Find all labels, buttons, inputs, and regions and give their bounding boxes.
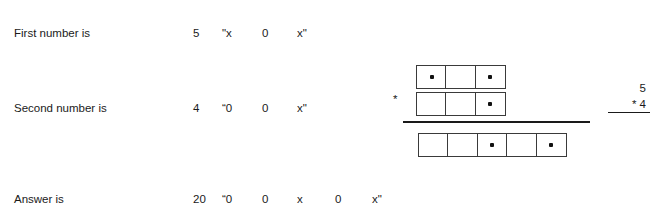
worksheet-canvas: First number is 5 "x 0 x" Second number …	[0, 0, 659, 220]
diagram-divider-line	[403, 121, 590, 123]
cell-empty	[447, 133, 478, 157]
cell-filled	[536, 133, 567, 157]
second-number-label: Second number is	[14, 101, 107, 115]
cell-filled	[475, 92, 506, 116]
cell-filled	[475, 65, 506, 89]
answer-label: Answer is	[14, 192, 64, 206]
long-multiplication: 5 * 4	[608, 80, 650, 113]
cell-filled	[416, 65, 447, 89]
answer-digit-2: 0	[262, 192, 268, 206]
answer-digit-3: x	[297, 192, 303, 206]
second-operand-row	[416, 92, 504, 116]
first-number-digit-3: x"	[297, 26, 307, 40]
second-number-value: 4	[193, 101, 199, 115]
answer-digit-5: x"	[372, 192, 382, 206]
multiplier: * 4	[608, 96, 650, 113]
cell-empty	[418, 133, 449, 157]
cell-empty	[416, 92, 447, 116]
second-number-digit-1: “0	[222, 101, 232, 115]
cell-filled	[477, 133, 508, 157]
second-number-digit-3: x"	[297, 101, 307, 115]
cell-empty	[445, 65, 476, 89]
cell-empty	[506, 133, 537, 157]
answer-digit-4: 0	[335, 192, 341, 206]
answer-value: 20	[193, 192, 206, 206]
first-number-digit-2: 0	[262, 26, 268, 40]
second-number-digit-2: 0	[262, 101, 268, 115]
first-number-digit-1: "x	[222, 26, 232, 40]
first-number-value: 5	[193, 26, 199, 40]
first-operand-row	[416, 65, 504, 89]
first-number-label: First number is	[14, 26, 90, 40]
cell-empty	[445, 92, 476, 116]
result-row	[418, 133, 565, 157]
multiplicand: 5	[608, 80, 650, 96]
multiply-operator-symbol: *	[393, 92, 397, 106]
answer-digit-1: “0	[222, 192, 232, 206]
